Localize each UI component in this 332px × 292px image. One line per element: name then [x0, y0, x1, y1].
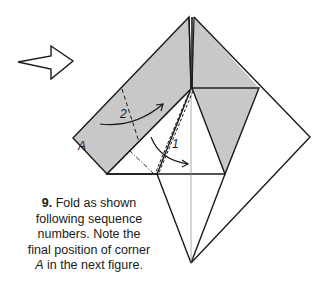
fold-2-label: 2 — [119, 107, 127, 121]
corner-a-label: A — [77, 139, 86, 153]
outline-right-arrow-icon — [18, 46, 73, 79]
caption-line-2: following sequence — [18, 212, 160, 228]
caption-line-3: numbers. Note the — [18, 227, 160, 243]
step-number: 9. — [42, 196, 52, 210]
caption-line-4: final position of corner — [18, 243, 160, 259]
fold-1-label: 1 — [172, 137, 179, 151]
caption-line-5: A in the next figure. — [18, 258, 160, 274]
caption-text-5: in the next figure. — [43, 258, 142, 272]
caption-text-1: Fold as shown — [56, 196, 137, 210]
step-caption: 9. Fold as shown following sequence numb… — [18, 196, 160, 274]
gray-top-right-flap — [192, 17, 259, 88]
caption-line-1: 9. Fold as shown — [18, 196, 160, 212]
